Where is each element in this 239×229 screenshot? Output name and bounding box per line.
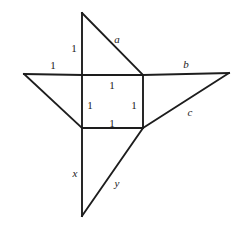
- segment-hypotenuse-c: [143, 73, 229, 128]
- label-len-top-vertical: 1: [71, 43, 77, 54]
- segment-hypotenuse-a: [82, 13, 143, 75]
- segment-left-hypotenuse: [24, 74, 82, 128]
- label-side-y: y: [115, 178, 120, 189]
- segment-hypotenuse-y: [82, 128, 143, 216]
- label-side-a: a: [114, 34, 120, 45]
- label-len-square-bottom: 1: [109, 118, 115, 129]
- segment-left-top-edge: [24, 74, 82, 75]
- label-len-square-right: 1: [131, 100, 137, 111]
- label-len-left-top: 1: [50, 60, 56, 71]
- label-side-b: b: [183, 59, 189, 70]
- label-side-x: x: [73, 168, 78, 179]
- label-len-square-left: 1: [87, 100, 93, 111]
- label-side-c: c: [188, 107, 193, 118]
- geometry-figure: 1a1b111c1xy: [0, 0, 239, 229]
- segment-group: [24, 13, 229, 216]
- label-len-square-top: 1: [109, 80, 115, 91]
- segment-right-top-edge-b: [143, 73, 229, 75]
